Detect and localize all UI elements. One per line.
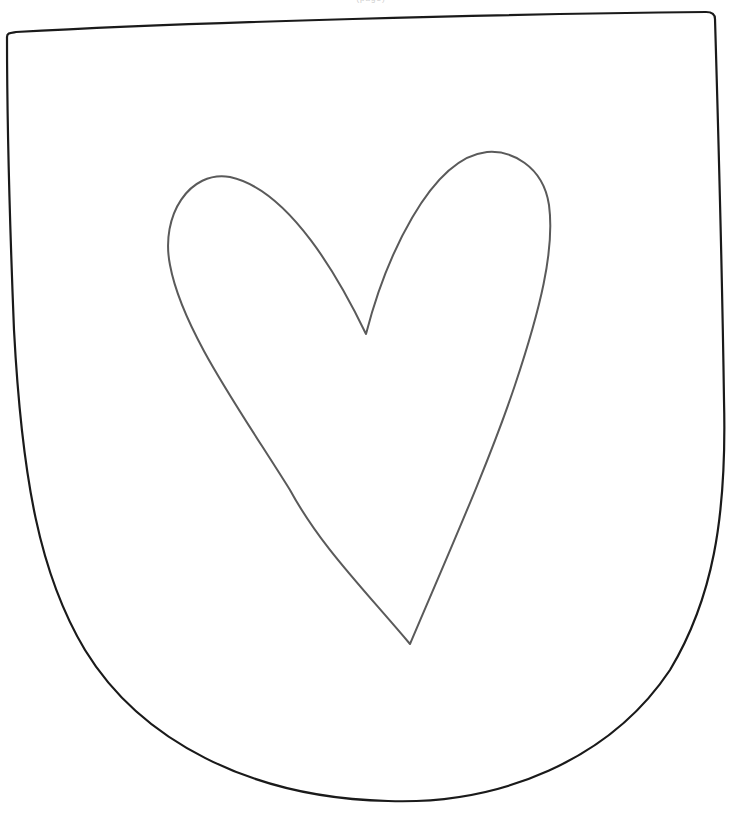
shield-outline-icon — [7, 12, 724, 801]
heart-outline-icon — [168, 152, 550, 644]
coloring-template — [0, 0, 742, 821]
